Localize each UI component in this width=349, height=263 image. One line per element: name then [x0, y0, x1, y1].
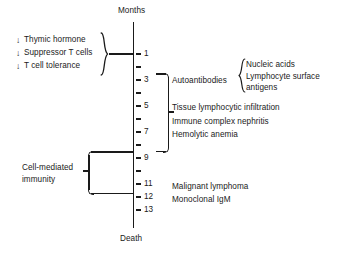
- risk-factor-label: T cell tolerance: [24, 61, 80, 72]
- axis-tick-9: [136, 157, 141, 158]
- axis-tick-label-13: 13: [144, 206, 153, 214]
- manifestations-bracket: [156, 73, 169, 152]
- axis-tick-4: [136, 92, 141, 93]
- cell-mediated-immunity-label-line2: immunity: [22, 175, 55, 186]
- axis-tick-label-3: 3: [144, 76, 149, 84]
- autoantibody-curly-brace-icon: [238, 58, 246, 93]
- cell-mediated-immunity-label-line1: Cell-mediated: [22, 163, 73, 174]
- event-label: Tissue lymphocytic infiltration: [172, 103, 280, 114]
- risk-factor-down-arrow-icon: ↓: [16, 35, 20, 46]
- axis-tick-label-9: 9: [144, 154, 149, 162]
- risk-factor-label: Suppressor T cells: [24, 48, 92, 59]
- axis-tick-6: [136, 118, 141, 119]
- event-label: Autoantibodies: [172, 76, 227, 87]
- axis-tick-5: [136, 105, 141, 106]
- event-label: Monoclonal IgM: [172, 195, 231, 206]
- autoantibody-target-label: Lymphocyte surface: [246, 72, 320, 83]
- axis-tick-label-11: 11: [144, 180, 153, 188]
- axis-tick-label-7: 7: [144, 128, 149, 136]
- risk-factor-down-arrow-icon: ↓: [16, 48, 20, 59]
- autoantibody-target-label: Nucleic acids: [246, 60, 295, 71]
- axis-tick-label-5: 5: [144, 102, 149, 110]
- axis-tick-13: [136, 209, 141, 210]
- axis-tick-8: [136, 144, 141, 145]
- event-label: Hemolytic anemia: [172, 130, 238, 141]
- axis-tick-3: [136, 79, 141, 80]
- axis-tick-label-1: 1: [144, 50, 149, 58]
- axis-tick-label-12: 12: [144, 193, 153, 201]
- axis-tick-12: [136, 196, 141, 197]
- axis-tick-11: [136, 183, 141, 184]
- event-label: Malignant lymphoma: [172, 182, 248, 193]
- cell-mediated-immunity-bracket: [88, 151, 133, 194]
- axis-title-months: Months: [118, 6, 145, 17]
- timeline-diagram: Months 13579111213 Death ↓Thymic hormone…: [0, 0, 349, 263]
- risk-factor-down-arrow-icon: ↓: [16, 61, 20, 72]
- axis-footer-death: Death: [120, 234, 142, 245]
- risk-factor-label: Thymic hormone: [24, 35, 86, 46]
- axis-tick-7: [136, 131, 141, 132]
- autoantibody-target-label: antigens: [246, 83, 277, 94]
- time-axis-line: [133, 22, 134, 228]
- axis-tick-1: [136, 53, 141, 54]
- left-curly-brace-icon: [100, 32, 109, 76]
- risk-factor-connector-line: [109, 53, 133, 54]
- axis-tick-2: [136, 66, 141, 67]
- event-label: Immune complex nephritis: [172, 117, 269, 128]
- axis-tick-10: [136, 170, 141, 171]
